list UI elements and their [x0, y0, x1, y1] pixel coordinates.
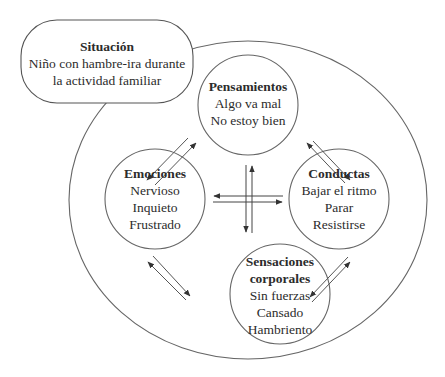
emotions-label: Emociones Nervioso Inquieto Frustrado	[105, 165, 205, 233]
emotions-title: Emociones	[105, 165, 205, 182]
sensations-line: Hambriento	[225, 321, 335, 338]
arrow-emotions-behaviors	[213, 196, 283, 202]
behaviors-label: Conductas Bajar el ritmo Parar Resistirs…	[284, 165, 394, 233]
sensations-label: Sensaciones corporales Sin fuerzas Cansa…	[225, 253, 335, 338]
arrow-thoughts-sensations	[246, 165, 252, 233]
emotions-line: Nervioso	[105, 182, 205, 199]
behaviors-line: Parar	[284, 199, 394, 216]
situation-label: Situación Niño con hambre-ira durante la…	[21, 38, 193, 89]
behaviors-line: Resistirse	[284, 216, 394, 233]
thoughts-title: Pensamientos	[198, 78, 298, 95]
situation-line: Niño con hambre-ira durante	[21, 55, 193, 72]
thoughts-line: No estoy bien	[198, 112, 298, 129]
arrow-emotions-sensations	[148, 256, 190, 300]
sensations-title: corporales	[225, 270, 335, 287]
sensations-title: Sensaciones	[225, 253, 335, 270]
behaviors-line: Bajar el ritmo	[284, 182, 394, 199]
emotions-line: Inquieto	[105, 199, 205, 216]
sensations-line: Sin fuerzas	[225, 287, 335, 304]
behaviors-title: Conductas	[284, 165, 394, 182]
thoughts-line: Algo va mal	[198, 95, 298, 112]
thoughts-label: Pensamientos Algo va mal No estoy bien	[198, 78, 298, 129]
situation-title: Situación	[21, 38, 193, 55]
emotions-line: Frustrado	[105, 216, 205, 233]
sensations-line: Cansado	[225, 304, 335, 321]
situation-line: la actividad familiar	[21, 72, 193, 89]
